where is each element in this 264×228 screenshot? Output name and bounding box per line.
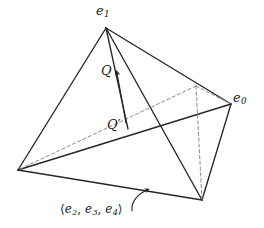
arrow-q-prime-to-q[interactable] <box>117 73 126 123</box>
tetrahedron-figure: e1 e0 Q Q′ ⟨e2, e3, e4⟩ <box>0 0 264 228</box>
label-e1-subscript: 1 <box>104 9 110 19</box>
face-item-e3-base: e <box>85 202 92 216</box>
bottom-face-pointer <box>132 190 147 211</box>
hidden-edge-back-to-bottom-right <box>196 86 202 200</box>
label-q-prime-mark: ′ <box>118 117 121 132</box>
edge-left-to-bottom-right <box>18 170 202 200</box>
label-e0-base: e <box>233 90 241 105</box>
label-q-prime-base: Q <box>107 117 118 132</box>
point-label-q: Q <box>101 64 112 77</box>
edge-e0-to-bottom-right <box>202 104 231 200</box>
edge-apex-to-e0 <box>106 28 231 104</box>
q-annotation-arrow <box>106 28 128 129</box>
face-separator-1: , <box>77 202 85 216</box>
angle-bracket-close-icon: ⟩ <box>118 202 123 216</box>
vertex-label-e1: e1 <box>96 4 110 19</box>
point-label-q-prime: Q′ <box>107 118 121 131</box>
face-item-e2-base: e <box>65 202 72 216</box>
vertex-label-e0: e0 <box>233 91 247 106</box>
figure-canvas <box>0 0 264 228</box>
label-e0-subscript: 0 <box>241 96 247 106</box>
bottom-face-label: ⟨e2, e3, e4⟩ <box>60 203 123 216</box>
edge-apex-to-bottom-right <box>106 28 202 200</box>
label-e1-base: e <box>96 3 104 18</box>
tetrahedron-hidden-edges <box>18 86 231 200</box>
curved-pointer-path <box>132 190 147 211</box>
